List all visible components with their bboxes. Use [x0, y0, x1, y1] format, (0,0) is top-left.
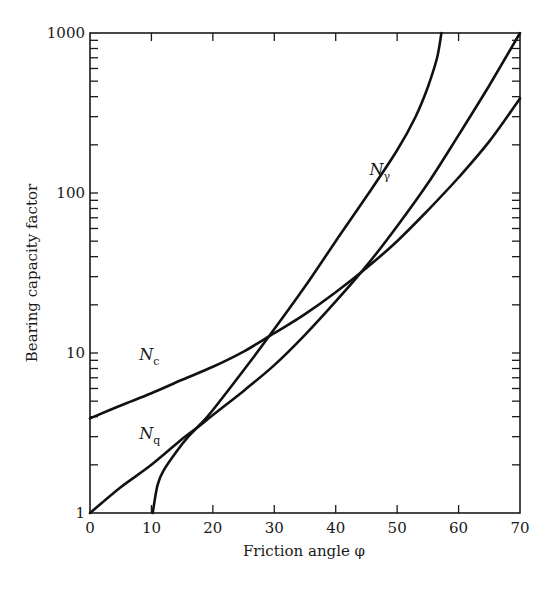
curve-ngamma: [153, 33, 442, 513]
bearing-capacity-chart: 0102030405060701101001000 NcNqNγ Frictio…: [0, 0, 555, 593]
x-tick-label: 10: [142, 519, 161, 537]
x-tick-label: 50: [388, 519, 407, 537]
y-tick-label: 1000: [47, 24, 85, 42]
x-axis-title: Friction angle φ: [243, 542, 365, 560]
x-tick-label: 60: [449, 519, 468, 537]
x-tick-label: 70: [510, 519, 529, 537]
y-axis-title: Bearing capacity factor: [23, 183, 41, 362]
x-tick-label: 0: [85, 519, 95, 537]
y-tick-label: 100: [56, 184, 85, 202]
curve-labels: NcNqNγ: [138, 160, 390, 447]
y-tick-label: 10: [66, 344, 85, 362]
y-tick-label: 1: [75, 504, 85, 522]
curve-label-nc: Nc: [138, 345, 159, 368]
plot-axes: 0102030405060701101001000: [47, 24, 530, 537]
curve-label-nq: Nq: [138, 424, 160, 447]
x-tick-label: 30: [265, 519, 284, 537]
x-tick-label: 20: [203, 519, 222, 537]
curve-nc: [90, 98, 520, 418]
x-tick-label: 40: [326, 519, 345, 537]
